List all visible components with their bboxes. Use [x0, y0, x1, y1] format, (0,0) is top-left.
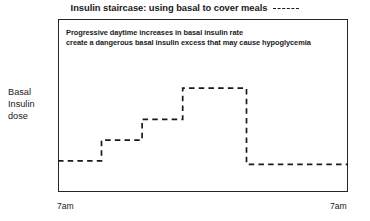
- chart-title-row: Insulin staircase: using basal to cover …: [0, 2, 370, 14]
- y-axis-label-line-3: dose: [8, 110, 56, 122]
- y-axis-label: Basal Insulin dose: [8, 86, 56, 123]
- annotation-line-2: create a dangerous basal insulin excess …: [66, 38, 346, 48]
- plot-annotation: Progressive daytime increases in basal i…: [66, 28, 346, 47]
- x-axis-tick-right: 7am: [330, 201, 347, 211]
- annotation-line-1: Progressive daytime increases in basal i…: [66, 28, 346, 38]
- y-axis-label-line-2: Insulin: [8, 98, 56, 110]
- y-axis-label-line-1: Basal: [8, 86, 56, 98]
- insulin-staircase-figure: Insulin staircase: using basal to cover …: [0, 0, 370, 221]
- x-axis-tick-left: 7am: [57, 201, 74, 211]
- dashed-line-legend-icon: [273, 8, 299, 9]
- page-title: Insulin staircase: using basal to cover …: [71, 2, 268, 14]
